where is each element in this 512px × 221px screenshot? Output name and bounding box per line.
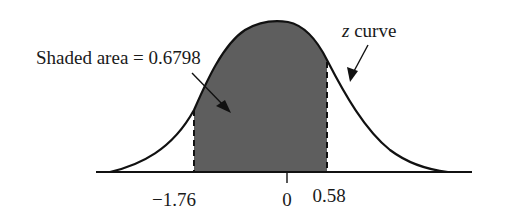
curve-word: curve	[349, 20, 396, 41]
tick-label-0-58: 0.58	[312, 185, 345, 206]
z-curve-arrowhead	[347, 67, 358, 82]
tick-label-neg-1-76: −1.76	[152, 189, 196, 210]
normal-curve-diagram: Shaded area = 0.6798 z curve −1.76 0 0.5…	[0, 0, 512, 221]
shaded-area-label: Shaded area = 0.6798	[36, 47, 201, 68]
z-curve-label: z curve	[341, 20, 396, 41]
tick-label-0: 0	[282, 189, 292, 210]
z-curve-arrow	[353, 45, 368, 73]
